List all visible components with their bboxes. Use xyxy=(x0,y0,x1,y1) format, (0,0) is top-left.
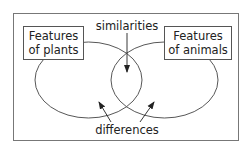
venn-diagram: Features of plants Features of animals s… xyxy=(0,0,247,151)
differences-arrow-left xyxy=(99,102,111,122)
plants-label-line1: Features xyxy=(29,29,78,43)
similarities-label: similarities xyxy=(96,19,159,33)
animals-label-line2: of animals xyxy=(168,43,228,57)
animals-label-line1: Features xyxy=(173,29,222,43)
plants-label-line2: of plants xyxy=(28,43,78,57)
differences-arrow-right xyxy=(140,102,154,122)
differences-label: differences xyxy=(95,123,159,137)
